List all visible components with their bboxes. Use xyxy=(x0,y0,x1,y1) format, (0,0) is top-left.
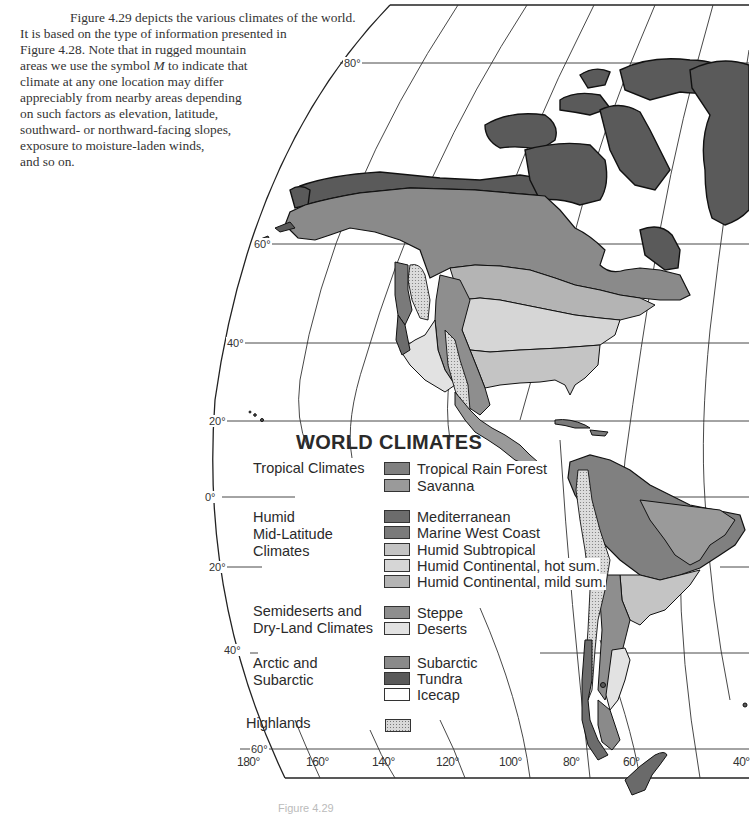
legend-label: Mediterranean xyxy=(417,509,511,525)
legend-item-marine-west-coast: Marine West Coast xyxy=(384,524,540,541)
latitude-label-40n: 40° xyxy=(226,337,245,349)
latitude-label-0: 0° xyxy=(204,491,217,503)
group-label-line: Semideserts and xyxy=(253,603,373,620)
group-label-line: Humid xyxy=(253,509,333,526)
swatch-humid-subtropical xyxy=(384,543,410,556)
group-label-line: Climates xyxy=(253,543,333,560)
legend-item-tundra: Tundra xyxy=(384,670,462,687)
legend-item-subarctic: Subarctic xyxy=(384,654,477,671)
legend-item-deserts: Deserts xyxy=(384,620,467,637)
legend-group-arctic: Arctic and Subarctic xyxy=(253,655,317,689)
longitude-label-60: 60° xyxy=(623,755,640,769)
swatch-humid-continental-hot xyxy=(384,559,410,572)
swatch-tundra xyxy=(384,672,410,685)
caribbean-islands xyxy=(555,420,608,436)
legend-label: Steppe xyxy=(417,605,463,621)
swatch-tropical-rain-forest xyxy=(384,462,410,475)
group-label-line: Mid-Latitude xyxy=(253,526,333,543)
legend-group-humid-mid-latitude: Humid Mid-Latitude Climates xyxy=(253,509,333,560)
latitude-label-60s: 60° xyxy=(250,743,269,755)
swatch-deserts xyxy=(384,622,410,635)
legend-group-tropical: Tropical Climates xyxy=(253,460,364,477)
latitude-label-20n: 20° xyxy=(208,415,227,427)
swatch-humid-continental-mild xyxy=(384,575,410,588)
longitude-label-160: 160° xyxy=(306,755,329,769)
legend-label: Marine West Coast xyxy=(417,525,540,541)
latitude-label-40s: 40° xyxy=(223,644,242,656)
legend-label: Subarctic xyxy=(417,655,477,671)
legend-item-icecap: Icecap xyxy=(384,686,460,703)
latitude-label-60n: 60° xyxy=(253,238,272,250)
legend-label: Humid Continental, mild sum. xyxy=(417,574,606,590)
legend-title: WORLD CLIMATES xyxy=(296,431,482,454)
swatch-steppe xyxy=(384,606,410,619)
swatch-highlands xyxy=(385,719,411,732)
longitude-label-80: 80° xyxy=(563,755,580,769)
longitude-label-100: 100° xyxy=(499,755,522,769)
figure-caption: Figure 4.29 xyxy=(278,802,334,814)
swatch-marine-west-coast xyxy=(384,526,410,539)
legend-item-humid-continental-mild: Humid Continental, mild sum. xyxy=(384,573,606,590)
humid-subtropical-region xyxy=(470,345,600,395)
group-label-line: Highlands xyxy=(246,715,311,732)
swatch-savanna xyxy=(384,479,410,492)
longitude-label-120: 120° xyxy=(436,755,459,769)
legend-group-semideserts: Semideserts and Dry-Land Climates xyxy=(253,603,373,637)
latitude-label-20s: 20° xyxy=(208,561,227,573)
longitude-label-40: 40° xyxy=(733,755,750,769)
legend-label: Savanna xyxy=(417,478,474,494)
legend-group-highlands: Highlands xyxy=(246,715,311,732)
legend-item-humid-subtropical: Humid Subtropical xyxy=(384,541,535,558)
legend-label: Humid Continental, hot sum. xyxy=(417,558,600,574)
legend-label: Humid Subtropical xyxy=(417,542,535,558)
latitude-label-80n: 80° xyxy=(343,57,362,69)
legend-item-tropical-rain-forest: Tropical Rain Forest xyxy=(384,460,547,477)
legend-item-highlands xyxy=(385,717,418,734)
legend-label: Icecap xyxy=(417,687,460,703)
group-label-line: Subarctic xyxy=(253,672,317,689)
legend-item-steppe: Steppe xyxy=(384,604,463,621)
legend-item-savanna: Savanna xyxy=(384,477,474,494)
legend-label: Tundra xyxy=(417,671,462,687)
swatch-icecap xyxy=(384,688,410,701)
longitude-label-180: 180° xyxy=(237,755,260,769)
swatch-mediterranean xyxy=(384,510,410,523)
longitude-label-140: 140° xyxy=(372,755,395,769)
legend-item-humid-continental-hot: Humid Continental, hot sum. xyxy=(384,557,600,574)
legend-item-mediterranean: Mediterranean xyxy=(384,508,511,525)
legend-label: Deserts xyxy=(417,621,467,637)
group-label-line: Tropical Climates xyxy=(253,460,364,477)
group-label-line: Arctic and xyxy=(253,655,317,672)
group-label-line: Dry-Land Climates xyxy=(253,620,373,637)
swatch-subarctic xyxy=(384,656,410,669)
legend-label: Tropical Rain Forest xyxy=(417,461,547,477)
